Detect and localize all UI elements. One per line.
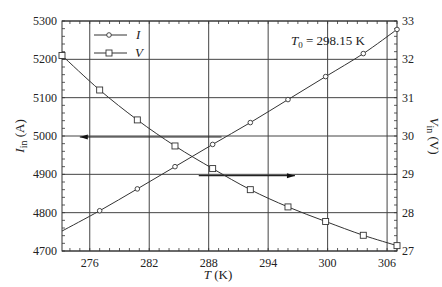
legend-label-v: V [135, 45, 145, 60]
legend-item-v: V [94, 45, 145, 60]
x-tick-label: 282 [140, 256, 158, 270]
left-y-axis-title: Iin (A) [12, 119, 29, 153]
x-tick-label: 306 [378, 256, 396, 270]
x-tick-label: 294 [259, 256, 277, 270]
left-y-tick-label: 4900 [33, 167, 57, 181]
square-marker-icon [210, 166, 216, 172]
circle-marker-icon [286, 97, 291, 102]
x-tick-label: 300 [319, 256, 337, 270]
left-y-axis-tick-labels: 4700480049005000510052005300 [33, 14, 57, 258]
x-tick-label: 276 [81, 256, 99, 270]
x-axis-tick-labels: 276282288294300306 [81, 256, 396, 270]
right-y-tick-label: 31 [402, 91, 414, 105]
left-y-tick-label: 5100 [33, 91, 57, 105]
legend-label-i: I [135, 27, 141, 42]
square-marker-icon [106, 50, 112, 56]
legend: I V [94, 27, 145, 60]
right-y-tick-label: 33 [402, 14, 414, 28]
t0-annotation: T0 = 298.15 K [291, 33, 366, 50]
circle-marker-icon [107, 33, 112, 38]
left-y-tick-label: 5300 [33, 14, 57, 28]
chart-svg: 276282288294300306 470048004900500051005… [0, 0, 442, 287]
square-marker-icon [172, 143, 178, 149]
right-y-axis-title: Vin (V) [425, 117, 442, 154]
circle-marker-icon [135, 187, 140, 192]
circle-marker-icon [210, 142, 215, 147]
series-line [62, 56, 397, 246]
legend-item-i: I [94, 27, 141, 42]
square-marker-icon [97, 87, 103, 93]
circle-marker-icon [173, 164, 178, 169]
square-marker-icon [59, 53, 65, 59]
left-y-tick-label: 5200 [33, 52, 57, 66]
circle-marker-icon [248, 120, 253, 125]
square-marker-icon [134, 117, 140, 123]
series-i [62, 27, 399, 231]
chart-container: 276282288294300306 470048004900500051005… [0, 0, 442, 287]
right-y-tick-label: 28 [402, 206, 414, 220]
right-y-tick-label: 29 [402, 167, 414, 181]
x-axis-title: T (K) [204, 267, 233, 282]
left-y-tick-label: 4800 [33, 206, 57, 220]
circle-marker-icon [323, 74, 328, 79]
square-marker-icon [285, 204, 291, 210]
circle-marker-icon [395, 27, 400, 32]
right-y-tick-label: 27 [402, 244, 414, 258]
left-y-tick-label: 4700 [33, 244, 57, 258]
square-marker-icon [360, 232, 366, 238]
square-marker-icon [247, 187, 253, 193]
circle-marker-icon [97, 208, 102, 213]
arrowhead-icon [80, 135, 88, 140]
square-marker-icon [323, 218, 329, 224]
square-marker-icon [394, 243, 400, 249]
right-y-tick-label: 30 [402, 129, 414, 143]
annotation-arrows [80, 135, 295, 179]
circle-marker-icon [361, 51, 366, 56]
right-y-axis-tick-labels: 27282930313233 [402, 14, 414, 258]
left-y-tick-label: 5000 [33, 129, 57, 143]
right-y-tick-label: 32 [402, 52, 414, 66]
series-v [59, 53, 400, 249]
data-series [59, 27, 400, 249]
